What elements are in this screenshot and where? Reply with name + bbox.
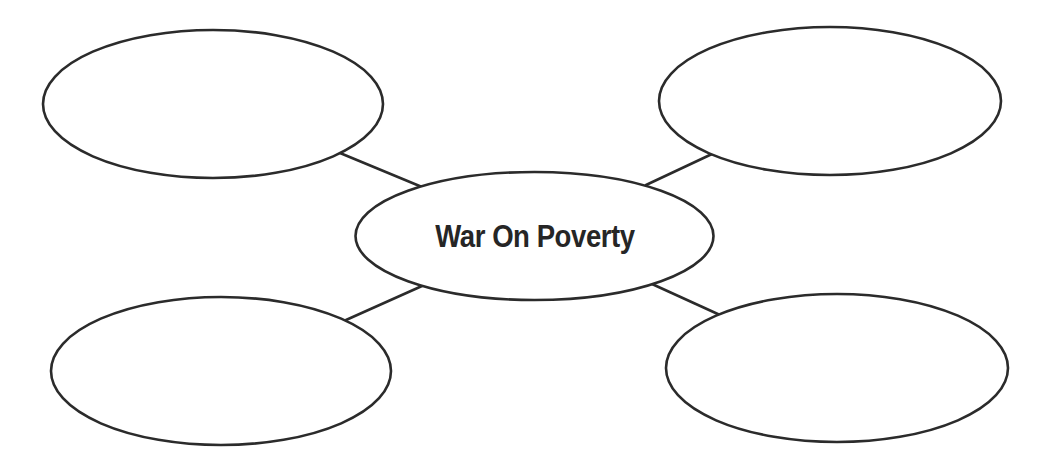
center-node: [356, 172, 714, 300]
concept-map-diagram: [0, 0, 1040, 468]
connector-top-left: [340, 153, 422, 187]
branch-node-bottom-right[interactable]: [666, 294, 1008, 442]
connector-bottom-right: [652, 284, 720, 315]
branch-node-top-right[interactable]: [659, 27, 1001, 175]
branch-node-top-left[interactable]: [43, 30, 383, 178]
connector-top-right: [646, 154, 712, 185]
connector-bottom-left: [346, 286, 422, 320]
branch-node-bottom-left[interactable]: [51, 297, 391, 445]
